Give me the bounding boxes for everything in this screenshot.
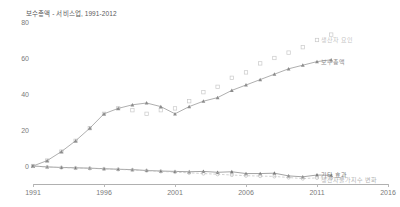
data-point xyxy=(273,56,276,59)
chart-title: 보수총액 - 서비스업, 1991-2012 xyxy=(26,8,117,18)
data-point xyxy=(216,96,220,100)
x-tick-label: 1996 xyxy=(96,189,112,196)
data-point xyxy=(216,85,219,88)
data-point xyxy=(230,76,233,79)
data-point xyxy=(131,109,134,112)
data-point xyxy=(287,51,290,54)
series-line xyxy=(33,60,331,166)
legend-item-0: 생산자 요인 xyxy=(321,37,353,43)
data-point xyxy=(315,38,318,41)
y-tick-label: 80 xyxy=(21,19,29,26)
x-tick-label: 2006 xyxy=(238,189,254,196)
series-line xyxy=(33,166,331,179)
data-point xyxy=(301,46,304,49)
data-point xyxy=(259,62,262,65)
x-tick-label: 2011 xyxy=(309,189,324,196)
series-0 xyxy=(31,33,333,168)
y-tick-label: 0 xyxy=(25,163,29,170)
data-point xyxy=(159,109,162,112)
legend-item-3: 생산자물가지수 변화 xyxy=(321,177,377,183)
series-3 xyxy=(31,164,332,180)
x-tick-mark xyxy=(388,184,389,187)
x-tick-label: 2001 xyxy=(167,189,183,196)
x-tick-mark xyxy=(246,184,247,187)
legend-item-1: 보수총액 xyxy=(321,59,345,65)
plot-area: 020406080 199119962001200620112016 생산자 요… xyxy=(33,22,388,184)
data-point xyxy=(244,71,247,74)
y-tick-label: 20 xyxy=(21,127,29,134)
chart-container: 보수총액 - 서비스업, 1991-2012 020406080 1991199… xyxy=(0,0,400,207)
x-tick-label: 1991 xyxy=(25,189,41,196)
x-tick-mark xyxy=(175,184,176,187)
series-layer xyxy=(33,22,388,184)
x-tick-mark xyxy=(317,184,318,187)
x-axis-line xyxy=(33,184,388,185)
data-point xyxy=(173,112,177,116)
data-point xyxy=(330,33,333,36)
data-point xyxy=(145,112,148,115)
data-point xyxy=(188,100,191,103)
y-tick-label: 40 xyxy=(21,91,29,98)
series-line xyxy=(33,166,331,177)
y-tick-label: 60 xyxy=(21,55,29,62)
x-tick-mark xyxy=(33,184,34,187)
x-tick-label: 2016 xyxy=(380,189,396,196)
series-1 xyxy=(31,58,333,168)
data-point xyxy=(202,91,205,94)
x-tick-mark xyxy=(104,184,105,187)
data-point xyxy=(173,107,176,110)
